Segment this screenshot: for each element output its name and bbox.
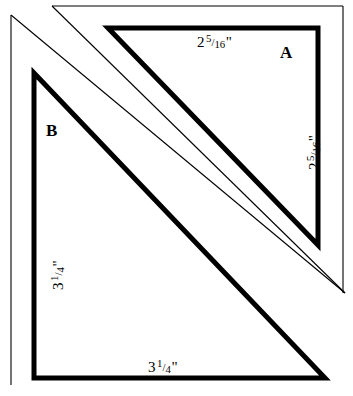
dimension-a-right-solidus: / [308,153,320,156]
dimension-a-right-whole: 2 [306,163,322,171]
dimension-a-top-whole: 2 [197,34,205,50]
dimension-a-right-inch-mark: " [306,135,322,141]
piece-label-b: B [46,122,57,139]
dimension-b-left: 31/4" [49,260,66,290]
dimension-b-left-denominator: 4 [54,267,66,272]
dimension-a-top: 25/16" [197,33,232,50]
dimension-a-top-denominator: 16 [214,38,225,50]
cutting-template-diagram: A B 25/16" 25/16" 31/4" 31/4" [0,0,353,396]
diagram-canvas [0,0,353,396]
dimension-b-left-whole: 3 [50,283,66,291]
dimension-b-bottom-denominator: 4 [165,363,170,375]
dimension-b-bottom-whole: 3 [148,359,156,375]
thin-hypotenuse-b-line [11,15,345,293]
dimension-b-left-numerator: 1 [48,276,60,281]
triangle-b-outline [34,73,325,378]
dimension-a-top-inch-mark: " [226,34,232,50]
dimension-b-left-solidus: / [52,273,64,276]
dimension-a-right-denominator: 16 [310,142,322,153]
dimension-b-bottom: 31/4" [148,358,178,375]
dimension-b-bottom-inch-mark: " [171,359,177,375]
piece-label-a: A [280,44,292,61]
dimension-a-right-numerator: 5 [304,156,316,161]
dimension-b-left-inch-mark: " [50,260,66,266]
dimension-a-right: 25/16" [305,135,322,170]
